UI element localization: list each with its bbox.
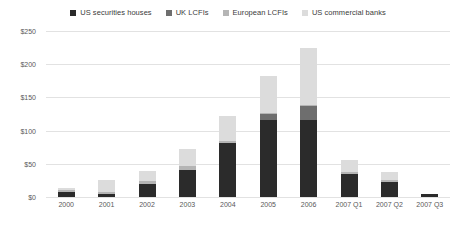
bar-segment[interactable] bbox=[139, 184, 156, 197]
legend-item-3[interactable]: US commercial banks bbox=[302, 9, 386, 17]
bar-group-2003[interactable] bbox=[179, 149, 196, 197]
legend-item-0[interactable]: US securities houses bbox=[70, 9, 151, 17]
x-tick-label: 2007 Q1 bbox=[329, 201, 369, 208]
bar-segment[interactable] bbox=[219, 143, 236, 197]
y-tick-label: $100 bbox=[0, 128, 36, 135]
bar-segment[interactable] bbox=[381, 182, 398, 197]
x-tick-label: 2000 bbox=[46, 201, 86, 208]
legend-item-label: US securities houses bbox=[80, 9, 151, 17]
bar-group-2007-Q1[interactable] bbox=[341, 160, 358, 197]
bar-segment[interactable] bbox=[179, 149, 196, 166]
x-tick-label: 2007 Q3 bbox=[410, 201, 450, 208]
x-tick-label: 2006 bbox=[288, 201, 328, 208]
bar-segment[interactable] bbox=[341, 160, 358, 172]
y-tick-label: $50 bbox=[0, 161, 36, 168]
bar-segment[interactable] bbox=[179, 170, 196, 197]
x-tick-label: 2002 bbox=[127, 201, 167, 208]
bar-group-2007-Q3[interactable] bbox=[421, 194, 438, 197]
bar-group-2000[interactable] bbox=[58, 188, 75, 197]
bar-segment[interactable] bbox=[260, 76, 277, 113]
legend-item-label: US commercial banks bbox=[312, 9, 386, 17]
bar-segment[interactable] bbox=[98, 180, 115, 192]
bar-segment[interactable] bbox=[341, 174, 358, 197]
bar-segment[interactable] bbox=[300, 120, 317, 197]
bar-group-2004[interactable] bbox=[219, 116, 236, 197]
legend-swatch-icon bbox=[223, 10, 229, 16]
bar-segment[interactable] bbox=[260, 120, 277, 197]
bar-segment[interactable] bbox=[139, 171, 156, 181]
x-tick-label: 2007 Q2 bbox=[369, 201, 409, 208]
x-axis-ticks: 20002001200220032004200520062007 Q12007 … bbox=[46, 201, 450, 215]
bar-group-2005[interactable] bbox=[260, 76, 277, 197]
legend-item-1[interactable]: UK LCFIs bbox=[166, 9, 209, 17]
x-tick-label: 2005 bbox=[248, 201, 288, 208]
y-tick-label: $0 bbox=[0, 194, 36, 201]
x-tick-label: 2004 bbox=[208, 201, 248, 208]
chart-legend: US securities housesUK LCFIsEuropean LCF… bbox=[0, 9, 456, 17]
legend-item-label: European LCFIs bbox=[233, 9, 288, 17]
bar-group-2001[interactable] bbox=[98, 180, 115, 197]
x-tick-label: 2001 bbox=[86, 201, 126, 208]
legend-swatch-icon bbox=[302, 10, 308, 16]
bar-group-2006[interactable] bbox=[300, 48, 317, 197]
gridline-0 bbox=[46, 197, 450, 198]
y-tick-label: $200 bbox=[0, 61, 36, 68]
y-tick-label: $150 bbox=[0, 94, 36, 101]
legend-swatch-icon bbox=[166, 10, 172, 16]
bar-segment[interactable] bbox=[58, 192, 75, 197]
plot-area: $250$200$150$100$50$0 bbox=[46, 31, 450, 197]
chart-container: US securities housesUK LCFIsEuropean LCF… bbox=[0, 0, 456, 233]
bar-segment[interactable] bbox=[98, 194, 115, 197]
bar-segment[interactable] bbox=[421, 194, 438, 197]
bar-group-2002[interactable] bbox=[139, 171, 156, 197]
x-tick-label: 2003 bbox=[167, 201, 207, 208]
bar-group-2007-Q2[interactable] bbox=[381, 172, 398, 197]
bar-segment[interactable] bbox=[381, 172, 398, 181]
legend-swatch-icon bbox=[70, 10, 76, 16]
y-tick-label: $250 bbox=[0, 28, 36, 35]
bar-segment[interactable] bbox=[300, 106, 317, 120]
legend-item-label: UK LCFIs bbox=[176, 9, 209, 17]
legend-item-2[interactable]: European LCFIs bbox=[223, 9, 288, 17]
bars-layer bbox=[46, 31, 450, 197]
bar-segment[interactable] bbox=[300, 48, 317, 104]
bar-segment[interactable] bbox=[219, 116, 236, 141]
